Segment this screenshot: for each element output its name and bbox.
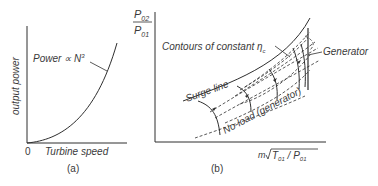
x-axis-label-b: m T01 / P01 bbox=[258, 149, 318, 162]
caption-a: (a) bbox=[67, 163, 79, 174]
no-load-label: No-load (generator) bbox=[221, 85, 303, 136]
surge-line-label: Surge line bbox=[184, 78, 230, 104]
caption-b: (b) bbox=[211, 163, 223, 174]
generator-label: Generator bbox=[323, 46, 369, 57]
y-axis-label-a: output power bbox=[10, 57, 21, 115]
figure-b: P02 P01 bbox=[133, 8, 369, 174]
x-axis-label-a: Turbine speed bbox=[45, 146, 109, 157]
power-label-leader bbox=[90, 62, 107, 71]
svg-text:m: m bbox=[258, 150, 266, 160]
svg-text:T01 / P01: T01 / P01 bbox=[272, 150, 307, 162]
contours-label: Contours of constant ηc bbox=[162, 41, 266, 54]
y-axis-label-b-num: P02 bbox=[134, 8, 149, 22]
power-label: Power ∝ N3 bbox=[33, 53, 85, 64]
origin-label: 0 bbox=[25, 146, 31, 157]
figure-a: Power ∝ N3 output power 0 Turbine speed … bbox=[10, 26, 127, 174]
y-axis-label-b-den: P01 bbox=[134, 24, 149, 38]
figure-canvas: Power ∝ N3 output power 0 Turbine speed … bbox=[0, 0, 378, 186]
